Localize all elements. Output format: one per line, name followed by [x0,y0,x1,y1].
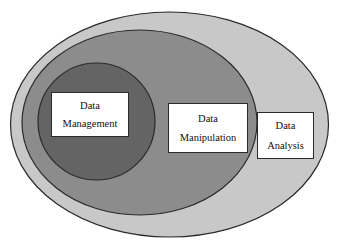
venn-diagram: Data Management Data Manipulation Data A… [0,0,340,248]
label-data-analysis[interactable]: Data Analysis [257,112,314,159]
label-data-analysis-line2: Analysis [267,140,304,151]
label-data-management-line2: Management [63,118,118,129]
label-data-management-line1: Data [80,100,100,111]
label-data-management[interactable]: Data Management [51,92,129,137]
label-data-manipulation-line1: Data [198,113,218,124]
label-data-manipulation[interactable]: Data Manipulation [168,103,248,153]
label-data-manipulation-line2: Manipulation [180,132,237,143]
label-data-analysis-line1: Data [276,120,296,131]
